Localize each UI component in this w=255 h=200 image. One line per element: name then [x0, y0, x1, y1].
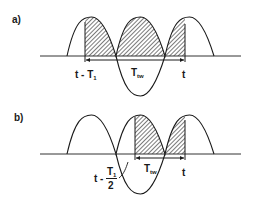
panel-b-window-label: Ttw [144, 163, 157, 175]
panel-b-arrowhead-left [136, 156, 140, 160]
panel-a-arrowhead-right [180, 58, 184, 62]
panel-a-end-marker-label: t [182, 69, 186, 80]
panel-b-end-marker-label: t [182, 167, 186, 178]
panel-b-negative-half-wave [116, 154, 165, 194]
panel-a-start-marker-label: t - T1 [75, 69, 97, 81]
panel-b-label: b) [14, 112, 23, 123]
panel-b-start-marker-prefix: t - [94, 173, 103, 184]
panel-b-arrowhead-right [180, 156, 184, 160]
panel-a-arrowhead-left [86, 58, 90, 62]
panel-a-label: a) [12, 14, 21, 25]
panel-a: a) t - T1 Ttw t [12, 14, 241, 96]
panel-b-fraction-denominator: 2 [108, 180, 114, 191]
panel-b: b) t - T1 2 Ttw t [14, 112, 241, 194]
panel-a-window-label: Ttw [131, 67, 144, 79]
waveform-diagram: a) t - T1 Ttw t b) [0, 0, 255, 200]
panel-a-hatched-area [67, 17, 214, 56]
panel-b-fraction-numerator: T1 [107, 166, 117, 178]
